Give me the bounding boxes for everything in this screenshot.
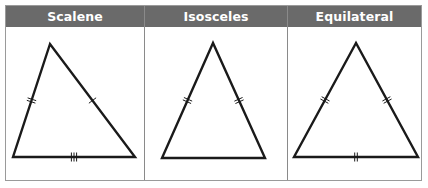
header-scalene: Scalene (6, 6, 144, 28)
column-isosceles: Isosceles (145, 6, 288, 180)
column-scalene: Scalene (6, 6, 145, 180)
header-equilateral: Equilateral (288, 6, 421, 28)
column-equilateral: Equilateral (288, 6, 421, 180)
triangle-types-table: Scalene Isosceles Equilateral (5, 5, 422, 181)
header-isosceles: Isosceles (145, 6, 287, 28)
